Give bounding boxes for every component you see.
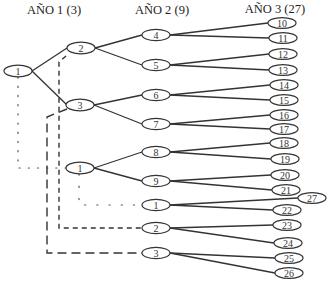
edge [170, 181, 272, 190]
node-label: 2 [79, 43, 84, 54]
node-label: 11 [278, 33, 288, 44]
node-label: 10 [277, 18, 287, 29]
node-year2: 9 [142, 175, 170, 186]
node-year3: 23 [273, 220, 301, 231]
edge [94, 168, 142, 181]
header-year-3: AÑO 3 (27) [245, 2, 305, 16]
edge [170, 23, 268, 35]
node-year3: 18 [270, 138, 298, 149]
node-label: 27 [307, 193, 317, 204]
node-year3: 20 [271, 170, 299, 181]
node-label: 2 [154, 223, 159, 234]
node-year2: 4 [142, 29, 170, 40]
edges-root-to-year1 [32, 48, 67, 105]
edge [170, 152, 271, 159]
node-year1: 3 [66, 99, 94, 111]
column-year-3: 10 11 12 13 14 15 16 17 18 19 20 21 27 2… [268, 18, 326, 279]
node-year2: 7 [142, 118, 170, 129]
edge [32, 71, 67, 105]
edge [170, 225, 273, 228]
node-year3: 22 [273, 205, 301, 216]
node-year2: 1 [142, 199, 170, 210]
edge [170, 54, 269, 65]
edge [170, 143, 270, 152]
tree-diagram: AÑO 1 (3) AÑO 2 (9) AÑO 3 (27) [0, 0, 328, 284]
node-label: 19 [280, 154, 290, 165]
node-label: 17 [279, 124, 289, 135]
node-label: 16 [279, 110, 289, 121]
node-year3: 26 [275, 268, 303, 279]
node-label: 1 [78, 163, 83, 174]
column-year-1: 2 3 1 [66, 42, 95, 174]
edge [170, 205, 273, 210]
node-label: 25 [284, 253, 294, 264]
edge [170, 228, 274, 243]
node-year1: 2 [67, 42, 95, 54]
node-label: 7 [154, 119, 159, 130]
edge [170, 198, 298, 205]
node-year3: 13 [269, 65, 297, 76]
edge [94, 152, 142, 168]
node-year3: 11 [269, 33, 297, 44]
node-root: 1 [4, 65, 32, 77]
node-year2: 8 [142, 146, 170, 157]
node-label: 26 [284, 268, 294, 279]
node-year3: 14 [270, 80, 298, 91]
edge [94, 95, 142, 105]
edge [94, 105, 142, 124]
node-label: 4 [154, 30, 159, 41]
dashed-connector-year1-2-to-year2-2 [59, 56, 142, 228]
node-year3: 10 [268, 18, 296, 29]
node-label: 14 [279, 80, 289, 91]
node-year3: 19 [271, 154, 299, 165]
node-label: 5 [154, 60, 159, 71]
node-year2: 5 [142, 59, 170, 70]
node-label: 22 [282, 205, 292, 216]
node-label: 3 [154, 248, 159, 259]
node-label: 24 [283, 238, 293, 249]
node-label: 1 [154, 200, 159, 211]
node-year3: 16 [270, 110, 298, 121]
node-label: 8 [154, 147, 159, 158]
edge [95, 35, 142, 48]
node-year3: 15 [270, 95, 298, 106]
edge [170, 124, 270, 129]
header-year-1: AÑO 1 (3) [27, 3, 81, 17]
node-label: 18 [279, 138, 289, 149]
node-label: 12 [278, 49, 288, 60]
node-year3: 24 [274, 238, 302, 249]
edge [170, 95, 270, 100]
node-year2: 2 [142, 222, 170, 233]
node-label: 3 [78, 100, 83, 111]
node-label: 20 [280, 170, 290, 181]
node-year3-offset: 27 [298, 193, 326, 204]
tree-diagram-canvas: AÑO 1 (3) AÑO 2 (9) AÑO 3 (27) [0, 0, 328, 284]
edge [170, 115, 270, 124]
edge [170, 35, 269, 38]
edge [170, 175, 271, 181]
node-label: 15 [279, 95, 289, 106]
node-year2: 3 [142, 247, 170, 258]
edge [95, 48, 142, 65]
edges-year1-to-year2 [94, 35, 142, 181]
node-year2: 6 [142, 89, 170, 100]
edge [170, 65, 269, 70]
header-year-2: AÑO 2 (9) [135, 3, 189, 17]
node-label: 1 [16, 66, 21, 77]
node-year3: 25 [275, 253, 303, 264]
node-year3: 17 [270, 124, 298, 135]
edge [170, 85, 270, 95]
long-dashed-connector-year1-3-to-year2-3 [47, 109, 142, 253]
node-year1: 1 [66, 162, 94, 174]
node-year3: 12 [269, 49, 297, 60]
node-year3: 21 [272, 185, 300, 196]
node-label: 23 [282, 220, 292, 231]
node-label: 9 [154, 176, 159, 187]
node-label: 13 [278, 65, 288, 76]
edge [32, 48, 67, 71]
node-label: 6 [154, 90, 159, 101]
column-year-2: 4 5 6 7 8 9 1 2 3 [142, 29, 170, 258]
node-label: 21 [281, 185, 291, 196]
